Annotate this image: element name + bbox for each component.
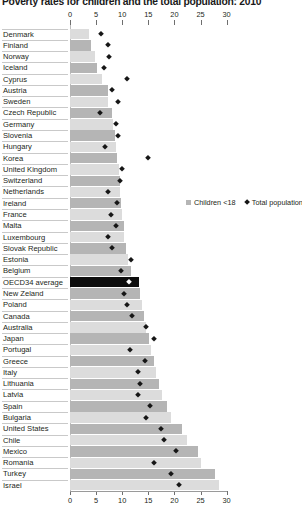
bar-children-under-18 (70, 108, 112, 118)
chart-row: Canada (0, 311, 302, 322)
bar-children-under-18 (70, 85, 108, 95)
country-label: United Kingdom (3, 164, 57, 175)
axis-tick-top (96, 20, 97, 25)
country-label: Latvia (3, 389, 23, 400)
chart-row: Poland (0, 299, 302, 310)
chart-row: Chile (0, 435, 302, 446)
country-label: Switzerland (3, 175, 42, 186)
chart-row: Greece (0, 356, 302, 367)
chart-row: United States (0, 423, 302, 434)
axis-tick-label-bottom: 20 (170, 496, 178, 505)
bar-children-under-18 (70, 130, 115, 140)
bar-children-under-18 (70, 119, 113, 129)
chart-row: New Zeland (0, 288, 302, 299)
country-label: Chile (3, 435, 20, 446)
chart-row: Netherlands (0, 186, 302, 197)
country-label: Malta (3, 220, 22, 231)
x-axis-line (70, 491, 227, 492)
bar-children-under-18 (70, 458, 201, 468)
legend-label-children: Children <18 (194, 198, 236, 207)
axis-tick-label-top: 15 (144, 10, 152, 19)
country-label: Denmark (3, 29, 34, 40)
axis-tick-label-top: 5 (94, 10, 98, 19)
legend-item-total: Total population (240, 198, 302, 207)
bar-children-under-18 (70, 29, 89, 39)
axis-tick-label-bottom: 30 (222, 496, 230, 505)
bar-children-under-18 (70, 333, 149, 343)
chart-row: Korea (0, 153, 302, 164)
legend-label-total: Total population (252, 198, 302, 207)
chart-row: Israel (0, 480, 302, 491)
legend-diamond-icon (244, 200, 250, 206)
bar-children-under-18 (70, 435, 187, 445)
chart-row: Norway (0, 51, 302, 62)
axis-tick-label-top: 0 (68, 10, 72, 19)
axis-tick-label-top: 20 (170, 10, 178, 19)
country-label: Turkey (3, 468, 26, 479)
country-label: Iceland (3, 62, 28, 73)
axis-tick-label-bottom: 15 (144, 496, 152, 505)
chart-row: Hungary (0, 141, 302, 152)
legend-item-children: Children <18 (186, 198, 236, 207)
country-label: Slovenia (3, 130, 32, 141)
marker-total-population (109, 87, 115, 93)
legend-swatch-icon (186, 200, 191, 205)
chart-row: Iceland (0, 62, 302, 73)
country-label: Poland (3, 299, 27, 310)
marker-total-population (119, 166, 125, 172)
plot-area: 051015202530051015202530DenmarkFinlandNo… (0, 0, 302, 518)
axis-tick-label-bottom: 10 (118, 496, 126, 505)
axis-tick-label-bottom: 25 (196, 496, 204, 505)
chart-row: Slovak Republic (0, 243, 302, 254)
chart-row: Sweden (0, 96, 302, 107)
country-label: OECD34 average (3, 277, 63, 288)
bar-children-under-18 (70, 153, 117, 163)
country-label: France (3, 209, 27, 220)
marker-total-population (105, 42, 111, 48)
country-label: Bulgaria (3, 412, 31, 423)
bar-children-under-18 (70, 51, 95, 61)
marker-total-population (115, 133, 121, 139)
marker-total-population (106, 54, 112, 60)
country-label: Sweden (3, 96, 30, 107)
chart-row: OECD34 average (0, 277, 302, 288)
bar-children-under-18 (70, 379, 159, 389)
country-label: Mexico (3, 446, 27, 457)
country-label: Greece (3, 356, 28, 367)
bar-children-under-18 (70, 390, 162, 400)
country-label: Luxembourg (3, 232, 45, 243)
chart-row: Spain (0, 401, 302, 412)
axis-tick-top (227, 20, 228, 25)
chart-row: Finland (0, 40, 302, 51)
bar-children-under-18 (70, 254, 128, 264)
country-label: Lithuania (3, 378, 34, 389)
marker-total-population (98, 31, 104, 37)
chart-row: Luxembourg (0, 232, 302, 243)
bar-children-under-18 (70, 300, 142, 310)
chart-legend: Children <18 Total population (186, 198, 302, 207)
marker-total-population (150, 336, 156, 342)
country-label: Finland (3, 40, 28, 51)
chart-row: Estonia (0, 254, 302, 265)
country-label: Italy (3, 367, 17, 378)
country-label: Cyprus (3, 74, 27, 85)
axis-tick-top (201, 20, 202, 25)
chart-row: Romania (0, 457, 302, 468)
marker-total-population (128, 257, 134, 263)
axis-tick-top (122, 20, 123, 25)
marker-total-population (101, 65, 107, 71)
chart-row: Mexico (0, 446, 302, 457)
bar-children-under-18 (70, 164, 119, 174)
chart-row: Bulgaria (0, 412, 302, 423)
country-label: Netherlands (3, 186, 44, 197)
chart-row: Austria (0, 85, 302, 96)
country-label: Hungary (3, 141, 32, 152)
country-label: Korea (3, 153, 23, 164)
bar-children-under-18 (70, 446, 198, 456)
country-label: Germany (3, 119, 34, 130)
bar-children-under-18 (70, 480, 219, 490)
axis-tick-label-bottom: 0 (68, 496, 72, 505)
country-label: New Zeland (3, 288, 44, 299)
chart-row: Switzerland (0, 175, 302, 186)
bar-children-under-18 (70, 232, 124, 242)
